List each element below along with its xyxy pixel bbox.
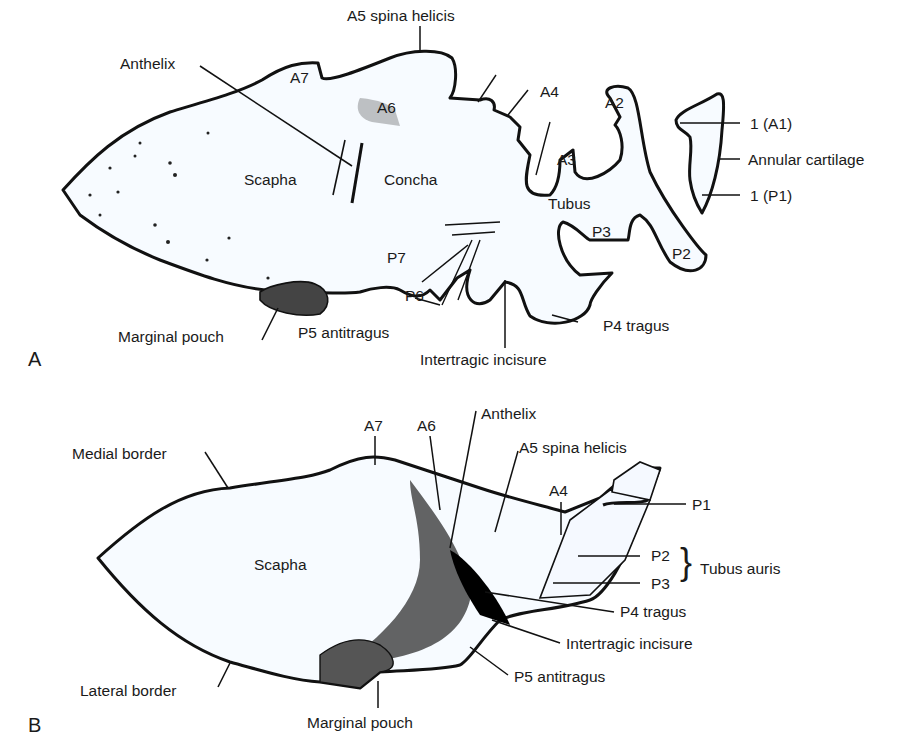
label-p3: P3 [592, 224, 611, 240]
label-a7: A7 [290, 70, 309, 86]
label-p5-antitragus: P5 antitragus [298, 325, 389, 341]
label-b-p1: P1 [692, 497, 711, 513]
label-b-p3: P3 [651, 576, 670, 592]
label-a6: A6 [377, 100, 396, 116]
tubus-brace: } [680, 544, 692, 580]
label-p4-tragus: P4 tragus [603, 318, 669, 334]
label-marginal-pouch: Marginal pouch [118, 329, 224, 345]
label-b-a6: A6 [417, 418, 436, 434]
label-anthelix: Anthelix [120, 56, 175, 72]
label-b-marginal-pouch: Marginal pouch [307, 715, 413, 731]
label-a2: A2 [605, 95, 624, 111]
label-a5-spina-helicis: A5 spina helicis [347, 8, 455, 24]
label-p7: P7 [387, 250, 406, 266]
label-b-a4: A4 [549, 483, 568, 499]
panel-b-letter: B [28, 715, 41, 735]
label-a1: 1 (A1) [750, 116, 792, 132]
label-a4: A4 [540, 84, 559, 100]
label-a3: A3 [557, 152, 576, 168]
panel-a-letter: A [28, 349, 41, 369]
label-tubus-auris: Tubus auris [700, 561, 780, 577]
label-concha: Concha [384, 172, 437, 188]
label-b-a7: A7 [364, 418, 383, 434]
label-b-p5-antitragus: P5 antitragus [514, 669, 605, 685]
label-p1: 1 (P1) [750, 188, 792, 204]
label-p2: P2 [672, 246, 691, 262]
label-b-p2: P2 [651, 548, 670, 564]
label-lateral-border: Lateral border [80, 683, 177, 699]
label-b-scapha: Scapha [254, 557, 307, 573]
label-b-anthelix: Anthelix [481, 406, 536, 422]
label-tubus: Tubus [548, 196, 591, 212]
label-b-intertragic-incisure: Intertragic incisure [566, 636, 693, 652]
label-intertragic-incisure: Intertragic incisure [420, 352, 547, 368]
anatomy-illustration [0, 0, 918, 744]
label-b-p4-tragus: P4 tragus [620, 604, 686, 620]
label-annular-cartilage: Annular cartilage [748, 152, 864, 168]
label-p6: P6 [405, 288, 424, 304]
label-scapha: Scapha [244, 172, 297, 188]
label-b-a5-spina-helicis: A5 spina helicis [519, 440, 627, 456]
label-medial-border: Medial border [72, 446, 167, 462]
